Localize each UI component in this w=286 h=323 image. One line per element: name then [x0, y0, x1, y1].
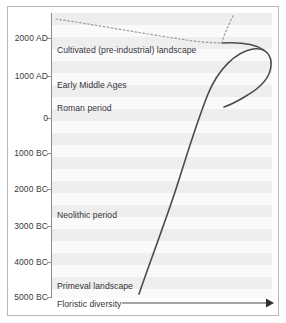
annotation-cultivated-landscape: Cultivated (pre-industrial) landscape	[57, 45, 196, 55]
y-tick-label-4000bc: 4000 BC	[0, 257, 48, 267]
x-axis-label: Floristic diversity	[57, 299, 121, 309]
y-tick-label-0: 0	[0, 113, 48, 123]
y-tick-label-1000ad: 1000 AD	[0, 71, 48, 81]
y-tick-label-3000bc: 3000 BC	[0, 221, 48, 231]
y-tick-label-5000bc: 5000 BC	[0, 292, 48, 302]
plot-area	[51, 13, 272, 298]
y-tick-label-1000bc: 1000 BC	[0, 148, 48, 158]
annotation-roman-period: Roman period	[57, 103, 112, 113]
annotation-early-middle-ages: Early Middle Ages	[57, 80, 127, 90]
annotation-neolithic-period: Neolithic period	[57, 210, 117, 220]
y-tick-label-2000ad: 2000 AD	[0, 33, 48, 43]
annotation-primeval-landscape: Primeval landscape	[57, 281, 133, 291]
floristic-diversity-figure: 2000 AD 1000 AD 0 1000 BC 2000 BC 3000 B…	[0, 0, 286, 323]
y-axis-line	[51, 13, 52, 298]
y-tick-label-2000bc: 2000 BC	[0, 184, 48, 194]
